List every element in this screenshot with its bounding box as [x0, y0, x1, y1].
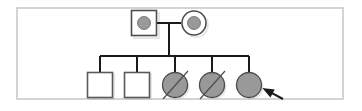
pedigree-symbol-female-affected-proband-II-5[interactable] — [237, 73, 262, 98]
pedigree-screenshot — [0, 0, 362, 111]
square-symbol — [125, 73, 150, 98]
pedigree-symbol-male-carrier-I-1[interactable] — [132, 11, 157, 36]
square-symbol — [88, 73, 113, 98]
carrier-dot-icon — [138, 17, 151, 30]
carrier-dot-icon — [188, 17, 201, 30]
pedigree-diagram — [0, 0, 362, 111]
circle-symbol — [237, 73, 262, 98]
pedigree-symbol-male-unaffected-II-1[interactable] — [88, 73, 113, 98]
pedigree-connectors — [100, 23, 249, 73]
pedigree-symbol-female-carrier-I-2[interactable] — [182, 11, 206, 35]
proband-arrow-icon — [264, 89, 283, 99]
pedigree-symbol-male-unaffected-II-2[interactable] — [125, 73, 150, 98]
